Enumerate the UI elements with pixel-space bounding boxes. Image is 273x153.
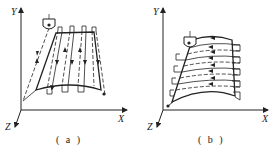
z-axis-label-a: Z [5, 122, 11, 132]
y-axis-label-b: Y [153, 7, 159, 17]
caption-a: ( a ) [56, 135, 82, 145]
figure-a [15, 8, 127, 127]
z-axis-a [15, 110, 21, 127]
figure-b [157, 8, 268, 127]
diagram-canvas [0, 0, 273, 153]
x-axis-label-b: X [262, 114, 268, 124]
y-axis-label-a: Y [11, 7, 17, 17]
surface-b [172, 37, 235, 103]
caption-b: ( b ) [198, 135, 225, 145]
z-axis-b [157, 110, 163, 127]
x-axis-label-a: X [118, 114, 124, 124]
z-axis-label-b: Z [147, 122, 153, 132]
